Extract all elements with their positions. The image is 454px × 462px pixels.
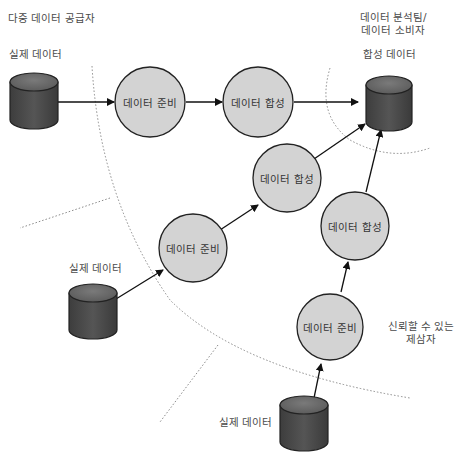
multi-provider-label: 다중 데이터 공급자 xyxy=(8,12,95,25)
node-prepare-1-label: 데이터 준비 xyxy=(123,95,176,110)
analyst-label-line1: 데이터 분석팀/ xyxy=(360,11,427,24)
target-database xyxy=(366,76,412,131)
node-prepare-2-label: 데이터 준비 xyxy=(166,241,219,256)
source-database-1 xyxy=(10,73,58,129)
node-prepare-3-label: 데이터 준비 xyxy=(303,320,356,335)
node-synth-2-label: 데이터 합성 xyxy=(260,171,313,186)
target-label: 합성 데이터 xyxy=(363,48,416,61)
process-nodes xyxy=(115,67,389,360)
source-database-2 xyxy=(69,284,117,339)
source-2-label: 실제 데이터 xyxy=(69,262,122,275)
trusted-party-label-line2: 제삼자 xyxy=(406,333,436,346)
source-3-label: 실제 데이터 xyxy=(219,416,272,429)
provider-divider-2 xyxy=(160,345,218,422)
node-synth-3-label: 데이터 합성 xyxy=(328,219,381,234)
trusted-party-label-line1: 신뢰할 수 있는 xyxy=(388,320,454,333)
source-1-label: 실제 데이터 xyxy=(9,48,62,61)
source-database-3 xyxy=(280,396,328,451)
node-synth-1-label: 데이터 합성 xyxy=(231,95,284,110)
provider-divider-1 xyxy=(20,198,110,228)
analyst-label-line2: 데이터 소비자 xyxy=(361,24,424,37)
